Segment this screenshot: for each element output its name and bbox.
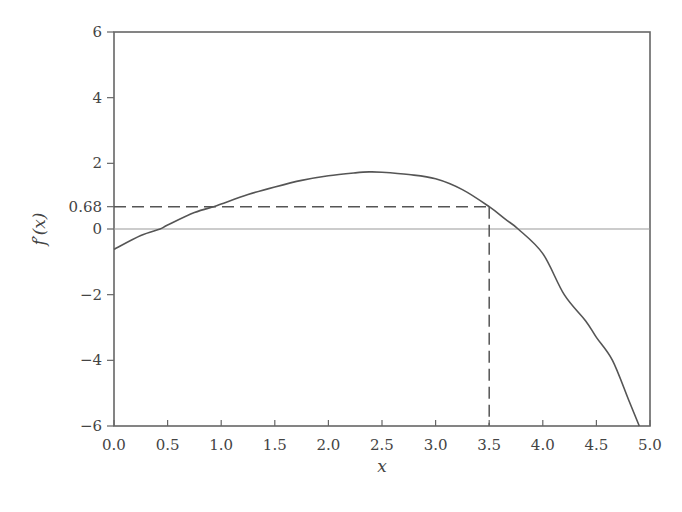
x-tick-label: 4.0 [531,436,555,454]
y-tick-label: 0.68 [69,198,102,216]
y-tick-label: 2 [92,154,102,172]
y-tick-label: −2 [80,286,102,304]
x-tick-label: 5.0 [638,436,662,454]
x-axis-ticks: 0.00.51.01.52.02.53.03.54.04.55.0 [102,420,662,454]
y-axis-ticks: 6420.680−2−4−6 [69,23,114,435]
x-tick-label: 0.5 [156,436,180,454]
y-tick-label: 0 [92,220,102,238]
y-tick-label: −4 [80,351,102,369]
x-tick-label: 3.5 [477,436,501,454]
x-tick-label: 4.5 [584,436,608,454]
x-tick-label: 1.0 [209,436,233,454]
series-line [114,172,639,426]
y-axis-label: f′(x) [29,212,49,247]
x-tick-label: 2.0 [316,436,340,454]
y-tick-label: 4 [92,89,102,107]
x-tick-label: 0.0 [102,436,126,454]
guide-dashed-lines [114,207,489,426]
x-tick-label: 2.5 [370,436,394,454]
x-axis-label: x [377,456,387,476]
y-tick-label: −6 [80,417,102,435]
chart: 0.00.51.01.52.02.53.03.54.04.55.0 6420.6… [0,0,682,512]
x-tick-label: 3.0 [424,436,448,454]
data-series [114,172,639,426]
x-tick-label: 1.5 [263,436,287,454]
y-tick-label: 6 [92,23,102,41]
